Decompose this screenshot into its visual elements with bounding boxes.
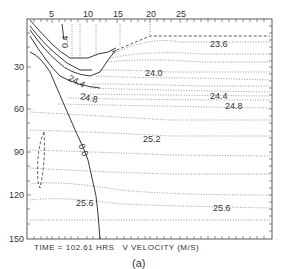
left-ticks	[27, 33, 31, 224]
x-tick-10: 10	[83, 9, 93, 19]
label-25-6-left: 25.6	[76, 198, 94, 208]
label-24-8-left: 24.8	[79, 91, 98, 104]
label-25-2: 25.2	[143, 134, 161, 144]
y-tick-120: 120	[9, 190, 24, 200]
x-tick-20: 20	[146, 9, 156, 19]
label-velocity-0-0: 0.0	[76, 142, 90, 157]
x-tick-25: 25	[176, 9, 186, 19]
y-tick-90: 90	[14, 147, 24, 157]
y-tick-30: 30	[14, 62, 24, 72]
bottom-ticks	[34, 236, 264, 239]
right-ticks	[269, 26, 272, 231]
y-tick-60: 60	[14, 104, 24, 114]
x-tick-labels: 5 10 15 20 25	[49, 9, 186, 19]
y-tick-150: 150	[9, 234, 24, 244]
figure-caption: TIME = 102.61 HRS V VELOCITY (M/S)	[34, 243, 199, 252]
y-tick-labels: 30 60 90 120 150	[9, 62, 24, 244]
label-23-6: 23.6	[210, 39, 228, 49]
x-tick-15: 15	[113, 9, 123, 19]
label-25-6-right: 25.6	[213, 203, 231, 213]
velocity-contours	[30, 20, 116, 239]
label-24-8-right: 24.8	[225, 101, 243, 111]
plot-frame	[27, 19, 272, 239]
label-velocity-0-4: 0.4	[60, 35, 70, 48]
panel-label: (a)	[132, 257, 145, 269]
dashed-boundary	[38, 36, 270, 188]
top-ticks	[34, 19, 264, 23]
label-24-0: 24.0	[145, 68, 163, 78]
x-tick-5: 5	[49, 9, 54, 19]
label-24-4-right: 24.4	[210, 91, 228, 101]
